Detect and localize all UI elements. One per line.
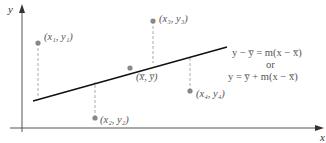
- point-p1: [35, 40, 40, 45]
- label-p3: (x₃, y₃): [159, 13, 188, 25]
- x-axis-label: x: [319, 131, 325, 143]
- point-p2: [92, 115, 97, 120]
- point-p3: [150, 18, 155, 23]
- y-axis-arrow-icon: [19, 4, 25, 13]
- mean-point: [127, 65, 132, 70]
- equation-1: y − y̅ = m(x − x̅): [232, 47, 302, 59]
- label-p4: (x₄, y₄): [196, 88, 225, 100]
- label-p2: (x₂, y₂): [100, 114, 129, 126]
- point-p4: [187, 88, 192, 93]
- equation-connector: or: [266, 59, 275, 70]
- label-p1: (x₁, y₁): [44, 31, 73, 43]
- regression-diagram: y x (x₁, y₁) (x₂, y₂) (x₃, y₃) (x₄, y₄) …: [0, 0, 326, 143]
- equation-2: y = y̅ + m(x − x̅): [228, 71, 298, 83]
- label-mean: (x̅, y̅): [136, 71, 158, 83]
- y-axis-label: y: [7, 3, 13, 15]
